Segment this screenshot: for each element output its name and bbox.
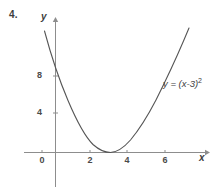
y-tick-label-8: 8 (30, 70, 42, 80)
y-axis-arrow-icon (53, 17, 58, 22)
x-tick-label-6: 6 (159, 155, 171, 165)
curve-equation-exponent: 2 (198, 77, 202, 84)
x-axis-arrow-icon (205, 150, 210, 155)
curve-equation-label: y = (x-3)2 (163, 78, 202, 89)
x-axis-label: x (199, 152, 205, 163)
y-tick-label-4: 4 (30, 107, 42, 117)
parabola-figure: 4. y x 0 2 4 6 8 4 y = (x-3)2 (0, 0, 217, 187)
x-tick-label-4: 4 (121, 155, 133, 165)
parabola-curve (45, 28, 190, 153)
x-tick-label-2: 2 (84, 155, 96, 165)
y-axis-label: y (41, 11, 47, 22)
parabola-plot (0, 0, 217, 187)
x-tick-label-0: 0 (36, 155, 48, 165)
curve-equation-text: y = (x-3) (163, 78, 198, 89)
